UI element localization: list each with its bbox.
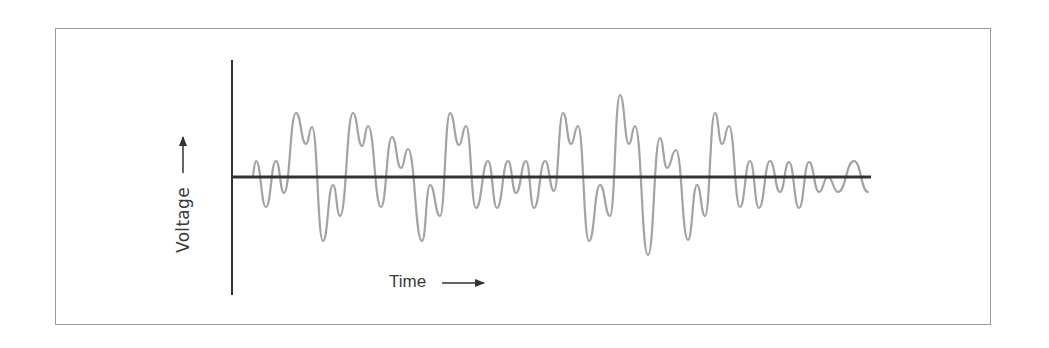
y-axis-label: Voltage xyxy=(173,187,193,253)
x-axis-label: Time xyxy=(389,272,426,292)
waveform-plot xyxy=(0,0,1049,348)
waveform-line xyxy=(252,95,868,255)
